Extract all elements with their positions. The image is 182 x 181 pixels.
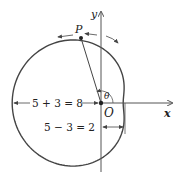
right-distance-label: 5 − 3 = 2 — [44, 121, 95, 133]
left-distance-label: 5 + 3 = 8 — [32, 97, 83, 109]
x-axis-label: x — [163, 107, 171, 120]
angle-label: θ — [104, 91, 110, 101]
point-p — [79, 36, 83, 40]
y-axis-label: y — [90, 8, 98, 21]
origin-label: O — [104, 106, 114, 120]
origin-point — [99, 101, 103, 105]
arrow-right-of-p — [85, 34, 97, 36]
radius-line — [81, 38, 101, 103]
arrow-right — [106, 36, 118, 43]
limacon-diagram: y x O P θ 5 + 3 = 8 5 − 3 = 2 — [0, 0, 182, 181]
arrow-left — [58, 35, 73, 37]
point-label: P — [74, 23, 83, 36]
